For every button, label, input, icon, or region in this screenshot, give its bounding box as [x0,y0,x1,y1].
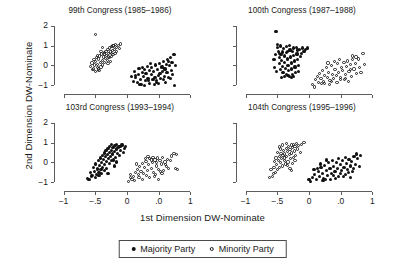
data-point [136,168,139,171]
data-point [326,174,329,177]
data-point [134,74,137,77]
data-point [278,145,281,148]
data-point [100,172,103,175]
data-point [325,169,328,172]
data-point [294,154,297,157]
data-point [363,63,366,66]
data-point [291,50,294,53]
data-point [174,64,177,67]
data-point [113,164,116,167]
data-point [324,178,327,181]
data-point [333,68,336,71]
data-point [170,69,173,72]
data-point [118,47,121,50]
data-point [155,161,158,164]
data-point [94,33,97,36]
data-point [299,55,302,58]
data-point [150,66,153,69]
data-point [101,46,104,49]
legend-label-minority: Minority Party [219,244,274,254]
data-point [336,62,339,65]
data-point [103,163,106,166]
y-tick-p104-0 [233,182,236,183]
data-point [148,176,151,179]
panel-p99: 99th Congress (1985–1986)−1012 [36,6,204,102]
data-point [141,71,144,74]
data-point [328,83,331,86]
data-point [351,170,354,173]
x-tick-p104-1 [277,192,278,195]
data-point [344,73,347,76]
data-point [103,52,106,55]
data-point [286,50,289,53]
data-point [169,77,172,80]
panel-title-p100: 100th Congress (1987–1988) [218,6,386,15]
x-tick-p104-2 [309,192,310,195]
data-point [170,61,173,64]
x-tick-label-p104-1: −.5 [268,197,286,206]
x-tick-label-p104-3: .0 [332,197,350,206]
legend-item-majority: Majority Party [131,244,195,254]
data-point [339,76,342,79]
data-point [150,158,153,161]
data-point [130,75,133,78]
data-point [107,55,110,58]
x-tick-p100-1 [277,95,278,98]
data-point [333,170,336,173]
data-point [345,65,348,68]
data-point [337,157,340,160]
data-point [169,56,172,59]
data-point [299,151,302,154]
data-point [350,160,353,163]
data-point [274,30,277,33]
data-point [321,172,324,175]
data-point [329,178,332,181]
x-tick-p100-3 [341,95,342,98]
y-tick-p103-1 [51,162,54,163]
y-axis-line-p99 [54,26,55,85]
data-point [275,70,278,73]
data-point [87,178,90,181]
data-point [335,161,338,164]
panel-p104: 104th Congress (1995–1996)−1−.50.01 [218,103,386,199]
data-point [313,173,316,176]
data-point [137,67,140,70]
data-point [286,64,289,67]
data-point [101,63,104,66]
data-point [293,159,296,162]
data-point [342,166,345,169]
data-point [135,162,138,165]
data-point [144,72,147,75]
data-point [342,61,345,64]
data-point [168,64,171,67]
data-point [133,179,136,182]
x-tick-p103-2 [127,192,128,195]
plot-area-p104: −1−.50.01 [236,117,382,191]
data-point [132,175,135,178]
data-point [165,71,168,74]
data-point [175,153,178,156]
data-point [133,70,136,73]
data-point [321,69,324,72]
data-point [292,75,295,78]
y-tick-label-p103-3: 2 [32,118,48,127]
y-tick-p104-2 [233,143,236,144]
y-tick-label-p99-0: −1 [32,81,48,90]
x-tick-p104-4 [372,192,373,195]
data-point [323,82,326,85]
x-tick-p104-0 [246,192,247,195]
data-point [154,63,157,66]
data-point [271,175,274,178]
data-point [330,64,333,67]
y-tick-p100-3 [233,26,236,27]
data-point [297,70,300,73]
data-point [318,175,321,178]
x-tick-label-p104-4: 1 [363,197,381,206]
data-point [315,178,318,181]
x-tick-p99-4 [190,95,191,98]
y-tick-p99-0 [51,85,54,86]
data-point [108,162,111,165]
data-point [274,53,277,56]
data-point [138,165,141,168]
x-tick-label-p104-0: −1 [237,197,255,206]
